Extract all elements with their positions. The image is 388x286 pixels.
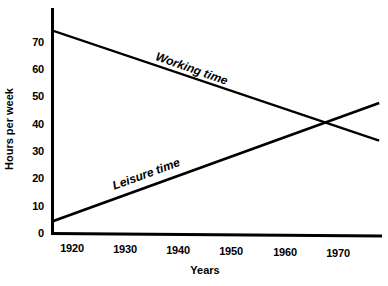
x-tick-label-1930: 1930 — [113, 244, 137, 255]
x-tick-label-1960: 1960 — [273, 247, 297, 258]
y-tick-label-50: 50 — [16, 91, 44, 102]
chart-plot-area — [0, 0, 388, 286]
x-tick-label-1970: 1970 — [326, 248, 350, 259]
y-tick-label-60: 60 — [16, 64, 44, 75]
y-tick-label-20: 20 — [16, 173, 44, 184]
y-tick-label-30: 30 — [16, 146, 44, 157]
y-tick-label-0: 0 — [16, 228, 44, 239]
line-chart: 70 60 50 40 30 20 10 0 1920 1930 1940 19… — [0, 0, 388, 286]
x-axis-title: Years — [190, 264, 219, 276]
y-tick-label-70: 70 — [16, 37, 44, 48]
y-tick-label-10: 10 — [16, 201, 44, 212]
chart-background — [0, 0, 388, 286]
x-tick-label-1950: 1950 — [219, 246, 243, 257]
y-tick-label-40: 40 — [16, 119, 44, 130]
y-axis-title: Hours per week — [3, 54, 15, 204]
x-tick-label-1940: 1940 — [166, 245, 190, 256]
x-tick-label-1920: 1920 — [60, 243, 84, 254]
